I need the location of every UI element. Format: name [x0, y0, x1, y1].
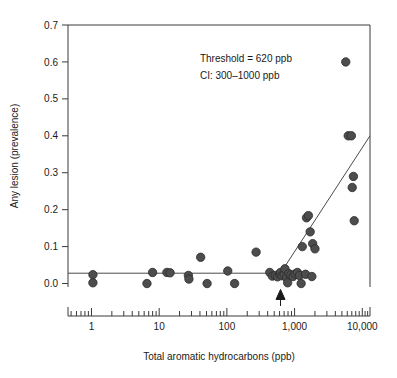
data-point-43	[349, 172, 357, 180]
y-tick-label-2: 0.2	[44, 204, 58, 215]
data-point-38	[311, 245, 319, 253]
data-point-35	[306, 228, 314, 236]
x-tick-label-1: 10	[154, 321, 166, 332]
data-point-10	[224, 267, 232, 275]
data-point-7	[185, 275, 193, 283]
threshold-arrow-head	[276, 289, 285, 299]
x-tick-label-3: 1,000	[282, 321, 307, 332]
y-tick-label-4: 0.4	[44, 130, 58, 141]
data-point-1	[89, 279, 97, 287]
data-point-8	[196, 253, 204, 261]
annotation-line-1: CI: 300–1000 ppb	[200, 70, 280, 81]
data-point-3	[148, 268, 156, 276]
data-point-11	[230, 279, 238, 287]
data-point-30	[297, 279, 305, 287]
scatter-plot-svg: 0.00.10.20.30.40.50.60.71101001,00010,00…	[0, 0, 397, 378]
y-tick-label-3: 0.3	[44, 167, 58, 178]
chart-figure: 0.00.10.20.30.40.50.60.71101001,00010,00…	[0, 0, 397, 378]
data-point-39	[342, 58, 350, 66]
data-point-9	[203, 279, 211, 287]
x-axis-line	[68, 307, 370, 316]
y-tick-label-0: 0.0	[44, 278, 58, 289]
y-tick-label-5: 0.5	[44, 93, 58, 104]
x-tick-label-2: 100	[219, 321, 236, 332]
data-point-44	[350, 217, 358, 225]
data-point-5	[166, 269, 174, 277]
data-point-42	[348, 183, 356, 191]
x-tick-label-4: 10,000	[347, 321, 378, 332]
data-point-34	[304, 211, 312, 219]
y-tick-label-1: 0.1	[44, 241, 58, 252]
x-axis-title: Total aromatic hydrocarbons (ppb)	[143, 351, 295, 362]
y-axis-title: Any lesion (prevalence)	[9, 104, 20, 209]
fitted-threshold-line	[68, 136, 370, 273]
annotation-line-0: Threshold = 620 ppb	[200, 53, 292, 64]
data-point-41	[347, 132, 355, 140]
plot-frame	[68, 25, 370, 287]
x-tick-label-0: 1	[89, 321, 95, 332]
y-tick-label-6: 0.6	[44, 57, 58, 68]
data-point-0	[89, 270, 97, 278]
data-point-31	[298, 242, 306, 250]
y-tick-label-7: 0.7	[44, 20, 58, 31]
data-point-36	[308, 272, 316, 280]
data-point-12	[252, 248, 260, 256]
data-point-2	[143, 279, 151, 287]
